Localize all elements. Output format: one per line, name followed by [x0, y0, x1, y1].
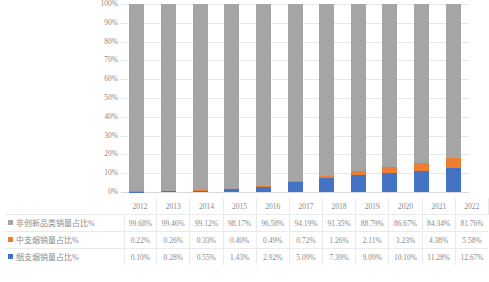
- x-axis-label-2014: 2014: [190, 198, 223, 215]
- bar-stack[interactable]: [446, 4, 461, 192]
- data-cell: 5.09%: [289, 249, 322, 266]
- bar-slot-2022: [437, 4, 469, 192]
- bar-segment[interactable]: [446, 168, 461, 192]
- bar-stack[interactable]: [193, 4, 208, 192]
- x-axis-label-2017: 2017: [289, 198, 322, 215]
- data-cell: 81.76%: [455, 215, 488, 232]
- legend-label: 中支烟销量占比%: [16, 236, 79, 245]
- legend-swatch-icon: [8, 237, 13, 242]
- data-cell: 0.55%: [190, 249, 223, 266]
- data-cell: 5.58%: [455, 232, 488, 249]
- legend-entry[interactable]: 中支烟销量占比%: [5, 232, 124, 249]
- legend-label: 非创新品类销量占比%: [16, 219, 95, 228]
- bar-stack[interactable]: [414, 4, 429, 192]
- bar-stack[interactable]: [288, 4, 303, 192]
- bar-segment[interactable]: [414, 4, 429, 163]
- y-tick-label: 50%: [84, 94, 118, 102]
- y-tick-label: 80%: [84, 38, 118, 46]
- x-axis-label-2015: 2015: [223, 198, 256, 215]
- bar-stack[interactable]: [129, 4, 144, 192]
- bar-segment[interactable]: [224, 4, 239, 189]
- table-row: 中支烟销量占比%0.22%0.26%0.33%0.40%0.49%0.72%1.…: [5, 232, 488, 249]
- bar-segment[interactable]: [161, 4, 176, 191]
- legend-swatch-icon: [8, 254, 13, 259]
- data-cell: 9.09%: [356, 249, 389, 266]
- bar-slot-2013: [153, 4, 185, 192]
- data-cell: 2.11%: [356, 232, 389, 249]
- data-cell: 0.33%: [190, 232, 223, 249]
- data-table: 2012201320142015201620172018201920202021…: [5, 198, 489, 265]
- data-cell: 0.28%: [157, 249, 190, 266]
- y-tick-label: 90%: [84, 19, 118, 27]
- table-row-years: 2012201320142015201620172018201920202021…: [5, 198, 488, 215]
- bar-segment[interactable]: [224, 189, 239, 192]
- bar-stack[interactable]: [224, 4, 239, 192]
- bar-segment[interactable]: [129, 4, 144, 191]
- x-axis-label-2022: 2022: [455, 198, 488, 215]
- bar-slot-2020: [374, 4, 406, 192]
- bar-segment[interactable]: [351, 175, 366, 192]
- data-cell: 2.92%: [256, 249, 289, 266]
- data-cell: 0.10%: [124, 249, 157, 266]
- bar-segment[interactable]: [382, 173, 397, 192]
- bar-stack[interactable]: [382, 4, 397, 192]
- data-cell: 0.40%: [223, 232, 256, 249]
- bar-segment[interactable]: [256, 4, 271, 186]
- bar-stack[interactable]: [351, 4, 366, 192]
- x-axis-label-2021: 2021: [422, 198, 455, 215]
- data-cell: 98.17%: [223, 215, 256, 232]
- table-row: 非创新品类销量占比%99.68%99.46%99.12%98.17%96.58%…: [5, 215, 488, 232]
- bar-stack[interactable]: [256, 4, 271, 192]
- y-tick-label: 20%: [84, 150, 118, 158]
- legend-label: 细支烟销量占比%: [16, 253, 79, 262]
- year-row-spacer: [5, 198, 124, 215]
- data-cell: 94.19%: [289, 215, 322, 232]
- data-cell: 86.67%: [389, 215, 422, 232]
- data-cell: 0.22%: [124, 232, 157, 249]
- y-tick-label: 40%: [84, 113, 118, 121]
- bar-slot-2021: [406, 4, 438, 192]
- bar-segment[interactable]: [319, 4, 334, 176]
- y-tick-label: 70%: [84, 56, 118, 64]
- bar-segment[interactable]: [446, 4, 461, 158]
- bar-segment[interactable]: [288, 4, 303, 181]
- bar-stack[interactable]: [319, 4, 334, 192]
- data-cell: 11.28%: [422, 249, 455, 266]
- data-cell: 4.38%: [422, 232, 455, 249]
- bar-segment[interactable]: [414, 163, 429, 171]
- gridline: [121, 192, 469, 193]
- bar-slot-2012: [121, 4, 153, 192]
- data-cell: 88.79%: [356, 215, 389, 232]
- data-cell: 84.34%: [422, 215, 455, 232]
- data-cell: 96.58%: [256, 215, 289, 232]
- bar-segment[interactable]: [193, 191, 208, 192]
- legend-entry[interactable]: 细支烟销量占比%: [5, 249, 124, 266]
- data-cell: 7.39%: [323, 249, 356, 266]
- bar-slot-2016: [248, 4, 280, 192]
- bar-segment[interactable]: [319, 178, 334, 192]
- bar-slot-2019: [342, 4, 374, 192]
- data-cell: 1.43%: [223, 249, 256, 266]
- bar-segment[interactable]: [351, 4, 366, 171]
- legend-entry[interactable]: 非创新品类销量占比%: [5, 215, 124, 232]
- x-axis-label-2016: 2016: [256, 198, 289, 215]
- bar-segment[interactable]: [446, 158, 461, 168]
- bar-segment[interactable]: [414, 171, 429, 192]
- bar-segment[interactable]: [161, 191, 176, 192]
- data-cell: 0.49%: [256, 232, 289, 249]
- bar-segment[interactable]: [256, 187, 271, 192]
- bar-stack[interactable]: [161, 4, 176, 192]
- bar-segment[interactable]: [193, 4, 208, 190]
- table-row: 细支烟销量占比%0.10%0.28%0.55%1.43%2.92%5.09%7.…: [5, 249, 488, 266]
- x-axis-label-2012: 2012: [124, 198, 157, 215]
- data-cell: 12.67%: [455, 249, 488, 266]
- data-cell: 99.12%: [190, 215, 223, 232]
- data-cell: 99.46%: [157, 215, 190, 232]
- data-cell: 0.72%: [289, 232, 322, 249]
- y-tick-label: 100%: [84, 0, 118, 8]
- y-tick-label: 0%: [84, 188, 118, 196]
- bar-segment[interactable]: [288, 182, 303, 192]
- bar-segment[interactable]: [382, 4, 397, 167]
- data-cell: 0.26%: [157, 232, 190, 249]
